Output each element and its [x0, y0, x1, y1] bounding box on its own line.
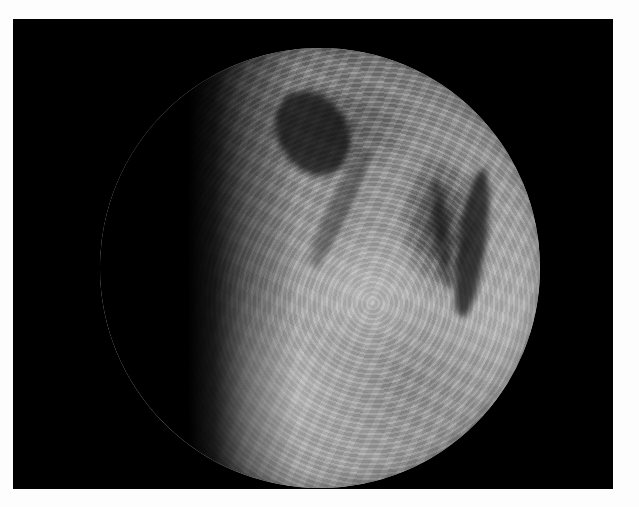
edge-shading — [100, 48, 540, 488]
circular-field-of-view — [100, 48, 540, 488]
image-frame — [13, 19, 613, 489]
